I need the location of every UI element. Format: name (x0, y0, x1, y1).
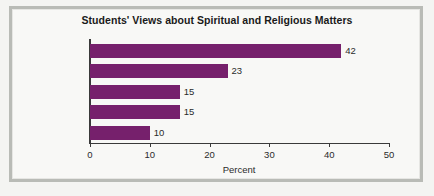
x-tick-label-20: 20 (204, 149, 215, 160)
bar (90, 64, 228, 78)
bar (90, 44, 341, 58)
x-tick-40 (329, 143, 330, 147)
bar (90, 126, 150, 140)
x-tick-label-0: 0 (87, 149, 92, 160)
x-tick-50 (389, 143, 390, 147)
x-tick-30 (269, 143, 270, 147)
bar-value-label: 42 (345, 45, 356, 56)
bar-value-label: 15 (184, 86, 195, 97)
x-axis-line (89, 143, 389, 145)
x-tick-label-50: 50 (384, 149, 395, 160)
x-tick-label-10: 10 (145, 149, 156, 160)
bar-value-label: 23 (232, 65, 243, 76)
x-axis-label: Percent (223, 164, 256, 175)
bar-value-label: 10 (154, 127, 165, 138)
x-tick-0 (90, 143, 91, 147)
plot-area: 01020304050 Secure42Seeking23Conflicted1… (0, 0, 434, 196)
bar-value-label: 15 (184, 106, 195, 117)
x-tick-label-40: 40 (324, 149, 335, 160)
bar (90, 85, 180, 99)
x-tick-10 (150, 143, 151, 147)
x-tick-label-30: 30 (264, 149, 275, 160)
bar (90, 105, 180, 119)
x-tick-20 (210, 143, 211, 147)
chart-screenshot: Students' Views about Spiritual and Reli… (0, 0, 434, 196)
